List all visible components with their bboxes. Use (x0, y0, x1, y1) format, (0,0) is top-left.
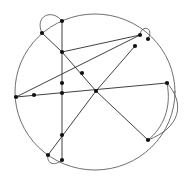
lens-arc-inner (148, 83, 168, 140)
chord-v9-v14 (96, 91, 148, 140)
loop-arc-upper-left (40, 15, 62, 33)
chord-v7-v11 (16, 35, 140, 97)
vertex-v11 (138, 33, 142, 37)
vertex-v1 (60, 19, 64, 23)
vertex-v6 (60, 91, 64, 95)
vertex-v9 (94, 89, 98, 93)
chord-v3-v11 (62, 35, 140, 52)
chord-v9-v16 (48, 91, 96, 155)
graph-drawing-figure (0, 0, 189, 179)
vertex-v8 (32, 93, 36, 97)
vertex-v7 (14, 95, 18, 99)
vertex-v3 (60, 50, 64, 54)
chord-v2-v3 (42, 33, 62, 52)
vertex-v5 (60, 81, 64, 85)
vertex-v4 (80, 71, 84, 75)
vertex-v2 (40, 31, 44, 35)
vertex-v16 (46, 153, 50, 157)
chord-v13-v9 (96, 46, 135, 91)
vertex-v10 (165, 81, 169, 85)
vertex-v14 (146, 138, 150, 142)
chord-v7-v10 (16, 83, 167, 97)
vertex-v15 (60, 133, 64, 137)
vertex-v12 (146, 37, 150, 41)
graph-canvas (0, 0, 189, 179)
vertex-v13 (133, 44, 137, 48)
lens-arc-outer (148, 83, 178, 140)
vertex-v17 (60, 158, 64, 162)
